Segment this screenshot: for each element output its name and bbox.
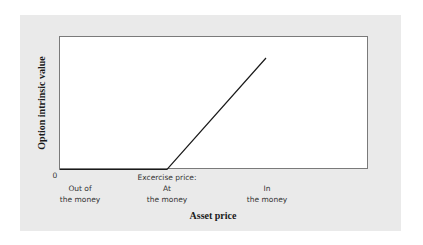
exercise-price-label: Excercise price:: [137, 172, 196, 183]
x-axis-label: Asset price: [190, 210, 237, 221]
annotation-line: the money: [60, 194, 100, 205]
payoff-line-chart: [0, 0, 423, 245]
y-axis-label: Option intrinsic value: [36, 56, 47, 149]
x-annotation-at-the-money: Excercise price: At the money: [137, 172, 196, 205]
origin-tick-label: 0: [53, 171, 58, 180]
annotation-line: the money: [247, 194, 287, 205]
x-annotation-in-the-money: In the money: [247, 183, 287, 205]
annotation-line: Out of: [60, 183, 100, 194]
annotation-line: In: [247, 183, 287, 194]
annotation-line: At: [137, 183, 196, 194]
annotation-line: the money: [137, 194, 196, 205]
x-annotation-out-of-the-money: Out of the money: [60, 183, 100, 205]
intrinsic-value-line: [60, 58, 267, 170]
